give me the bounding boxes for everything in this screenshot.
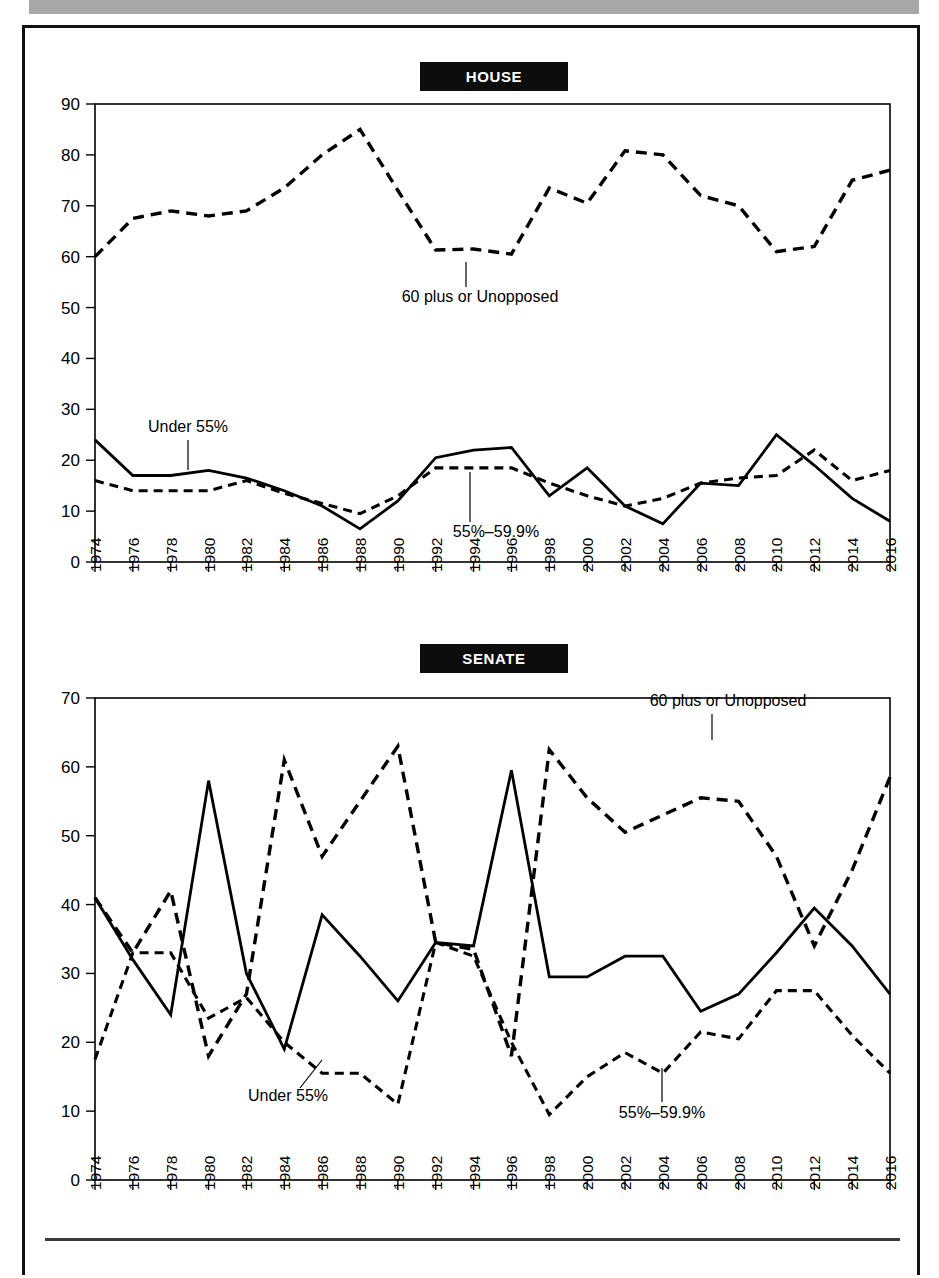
chart-panel-house: HOUSE 0102030405060708090197419761978198… — [0, 0, 939, 640]
y-tick-label: 40 — [61, 349, 80, 368]
house-svg: 0102030405060708090197419761978198019821… — [0, 0, 939, 640]
annotation-label: 55%–59.9% — [453, 523, 539, 540]
series-line-55-59-9 — [95, 450, 890, 514]
x-tick-label: 1980 — [201, 1155, 218, 1190]
chart-panel-senate: SENATE 010203040506070197419761978198019… — [0, 640, 939, 1278]
annotation-label: 60 plus or Unopposed — [402, 288, 559, 305]
y-tick-label: 0 — [71, 1171, 80, 1190]
x-tick-label: 1992 — [428, 538, 445, 572]
x-tick-label: 1990 — [390, 537, 407, 572]
x-tick-label: 2000 — [579, 537, 596, 572]
annotation-label: 60 plus or Unopposed — [650, 692, 807, 709]
x-tick-label: 1974 — [87, 537, 104, 572]
x-tick-label: 2000 — [579, 1155, 596, 1190]
x-tick-label: 1976 — [125, 1156, 142, 1190]
x-tick-label: 2002 — [617, 538, 634, 572]
x-tick-label: 1980 — [201, 537, 218, 572]
y-tick-label: 30 — [61, 400, 80, 419]
x-tick-label: 1982 — [238, 1156, 255, 1190]
series-line-60-plus-or-unopposed — [95, 129, 890, 256]
annotation-label: Under 55% — [148, 418, 228, 435]
y-tick-label: 70 — [61, 689, 80, 708]
x-tick-label: 2012 — [806, 1156, 823, 1190]
x-tick-label: 1988 — [352, 1156, 369, 1190]
x-tick-label: 1998 — [541, 538, 558, 572]
x-tick-label: 1982 — [238, 538, 255, 572]
annotation-label: 55%–59.9% — [619, 1104, 705, 1121]
plot-area-border — [95, 698, 890, 1180]
plot-senate: 0102030405060701974197619781980198219841… — [0, 640, 939, 1278]
y-tick-label: 20 — [61, 451, 80, 470]
x-tick-label: 1984 — [276, 537, 293, 572]
x-tick-label: 1994 — [466, 537, 483, 572]
x-tick-label: 2010 — [768, 1155, 785, 1190]
x-tick-label: 1978 — [163, 1156, 180, 1190]
x-tick-label: 2006 — [693, 1156, 710, 1190]
y-tick-label: 20 — [61, 1033, 80, 1052]
x-tick-label: 2014 — [844, 1155, 861, 1190]
x-tick-label: 2014 — [844, 537, 861, 572]
y-tick-label: 90 — [61, 95, 80, 114]
x-tick-label: 2016 — [882, 1156, 899, 1190]
x-tick-label: 2004 — [655, 1155, 672, 1190]
senate-svg: 0102030405060701974197619781980198219841… — [0, 640, 939, 1278]
y-tick-label: 50 — [61, 299, 80, 318]
x-tick-label: 1976 — [125, 538, 142, 572]
x-tick-label: 1978 — [163, 538, 180, 572]
series-line-under-55 — [95, 435, 890, 529]
x-tick-label: 2004 — [655, 537, 672, 572]
x-tick-label: 1996 — [503, 538, 520, 572]
x-tick-label: 1974 — [87, 1155, 104, 1190]
y-tick-label: 0 — [71, 553, 80, 572]
x-tick-label: 2008 — [731, 1156, 748, 1190]
x-tick-label: 2006 — [693, 538, 710, 572]
plot-area-border — [95, 104, 890, 562]
y-tick-label: 50 — [61, 827, 80, 846]
series-line-60-plus-or-unopposed — [95, 746, 890, 1056]
y-tick-label: 10 — [61, 1102, 80, 1121]
x-tick-label: 1986 — [314, 1156, 331, 1190]
x-tick-label: 1984 — [276, 1155, 293, 1190]
x-tick-label: 2008 — [731, 538, 748, 572]
x-tick-label: 2016 — [882, 538, 899, 572]
x-tick-label: 1990 — [390, 1155, 407, 1190]
x-tick-label: 1996 — [503, 1156, 520, 1190]
plot-house: 0102030405060708090197419761978198019821… — [0, 0, 939, 640]
x-tick-label: 2002 — [617, 1156, 634, 1190]
y-tick-label: 10 — [61, 502, 80, 521]
y-tick-label: 60 — [61, 248, 80, 267]
y-tick-label: 30 — [61, 964, 80, 983]
y-tick-label: 70 — [61, 197, 80, 216]
x-tick-label: 1998 — [541, 1156, 558, 1190]
annotation-label: Under 55% — [248, 1087, 328, 1104]
x-tick-label: 1988 — [352, 538, 369, 572]
series-line-55-59-9 — [95, 942, 890, 1114]
x-tick-label: 2010 — [768, 537, 785, 572]
x-tick-label: 1986 — [314, 538, 331, 572]
x-tick-label: 1992 — [428, 1156, 445, 1190]
x-tick-label: 2012 — [806, 538, 823, 572]
y-tick-label: 40 — [61, 896, 80, 915]
x-tick-label: 1994 — [466, 1155, 483, 1190]
y-tick-label: 80 — [61, 146, 80, 165]
y-tick-label: 60 — [61, 758, 80, 777]
